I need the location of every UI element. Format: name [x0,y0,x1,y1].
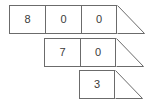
cell: 0 [80,38,116,67]
right-triangle-icon [117,5,145,34]
cell: 8 [9,5,45,34]
right-triangle-icon [115,70,143,99]
cell: 0 [45,5,81,34]
cell: 3 [79,70,115,99]
right-triangle-icon [116,38,144,67]
diagram-row: 8 0 0 [9,5,145,34]
diagram-row: 7 0 [44,38,144,67]
cell: 0 [81,5,117,34]
cell: 7 [44,38,80,67]
diagram-row: 3 [79,70,143,99]
diagram-canvas: 8 0 0 7 0 3 [0,0,152,102]
